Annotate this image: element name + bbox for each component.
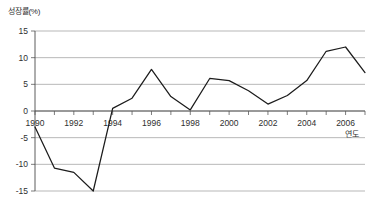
y-tick-label: 15 xyxy=(19,26,29,36)
y-tick-label: 0 xyxy=(23,106,28,116)
y-tick-label: 5 xyxy=(23,79,28,89)
x-tick-label: 1992 xyxy=(64,118,83,128)
x-tick-label: 1996 xyxy=(142,118,161,128)
x-tick-label: 2004 xyxy=(297,118,316,128)
plot-area: 151050-5-10-15 1990199219941996199820002… xyxy=(0,0,378,208)
x-tick-label: 2002 xyxy=(258,118,277,128)
y-axis: 151050-5-10-15 xyxy=(16,26,35,196)
y-tick-label: 10 xyxy=(19,53,29,63)
x-tick-label: 1998 xyxy=(181,118,200,128)
y-tick-label: -15 xyxy=(16,186,29,196)
x-tick-label: 2000 xyxy=(220,118,239,128)
growth-rate-line-chart: 성장률(%) 연도 151050-5-10-15 199019921994199… xyxy=(0,0,378,208)
x-tick-label: 2006 xyxy=(336,118,355,128)
y-tick-label: -5 xyxy=(20,133,28,143)
x-axis: 199019921994199619982000200220042006 xyxy=(26,111,365,128)
x-tick-label: 1994 xyxy=(103,118,122,128)
y-tick-label: -10 xyxy=(16,159,29,169)
